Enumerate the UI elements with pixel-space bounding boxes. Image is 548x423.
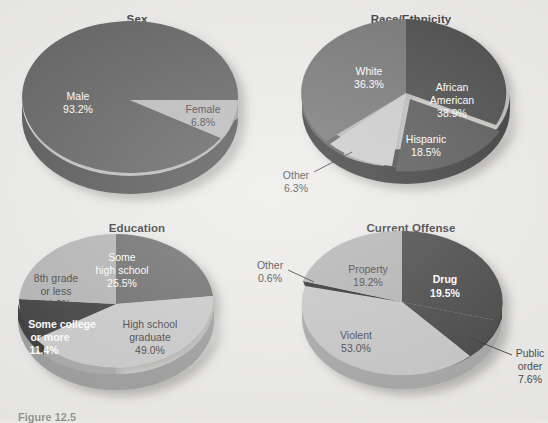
slice-value-male: 93.2% [63,103,93,115]
slice-label-public-order-line2: order [518,360,543,372]
slice-label-other-race: Other [283,169,310,181]
slice-label-hs-graduate-line2: graduate [129,331,171,343]
pie-offense [302,231,503,389]
slice-label-drug: Drug [433,273,458,285]
chart-panel-race: Race/Ethnicity [274,0,548,212]
figure-caption: Figure 12.5 [18,411,76,423]
slice-value-other-race: 6.3% [284,182,308,194]
slice-label-public-order-line1: Public [516,347,545,359]
chart-panel-education: Education Som [0,208,274,420]
slice-label-some-high-school-line1: Some [108,251,136,263]
slice-value-other-offense: 0.6% [258,272,282,284]
slice-value-hs-graduate: 49.0% [135,344,165,356]
chart-panel-offense: Current Offense [274,208,548,420]
slice-label-african-american-line2: American [430,94,475,106]
slice-value-female: 6.8% [191,116,215,128]
slice-label-other-offense: Other [257,259,284,271]
slice-label-male: Male [67,90,90,102]
slice-label-female: Female [185,103,220,115]
slice-label-8th-grade-line2: or less [41,285,72,297]
chart-panel-sex: Sex Male 93.2% Female 6.8% [0,0,274,212]
slice-value-hispanic: 18.5% [411,146,441,158]
slice-label-hispanic: Hispanic [406,133,446,145]
slice-label-violent: Violent [340,329,372,341]
slice-label-some-college-line2: or more [30,331,69,343]
slice-label-8th-grade-line1: 8th grade [34,272,79,284]
slice-value-white: 36.3% [354,78,384,90]
slice-value-drug: 19.5% [430,287,460,299]
slice-label-white: White [356,65,383,77]
slice-value-public-order: 7.6% [518,373,542,385]
slice-value-violent: 53.0% [341,342,371,354]
slice-label-property: Property [348,263,388,275]
slice-value-property: 19.2% [353,276,383,288]
slice-value-african-american: 38.9% [437,107,467,119]
slice-label-hs-graduate-line1: High school [123,318,178,330]
pie-race [301,19,510,184]
slice-label-african-american-line1: African [436,81,469,93]
slice-value-some-college: 11.4% [29,344,59,356]
slice-value-some-high-school: 25.5% [107,277,137,289]
slice-value-8th-grade: 14.2% [41,298,71,310]
slice-label-some-college-line1: Some college [28,318,96,330]
slice-label-some-high-school-line2: high school [95,264,148,276]
